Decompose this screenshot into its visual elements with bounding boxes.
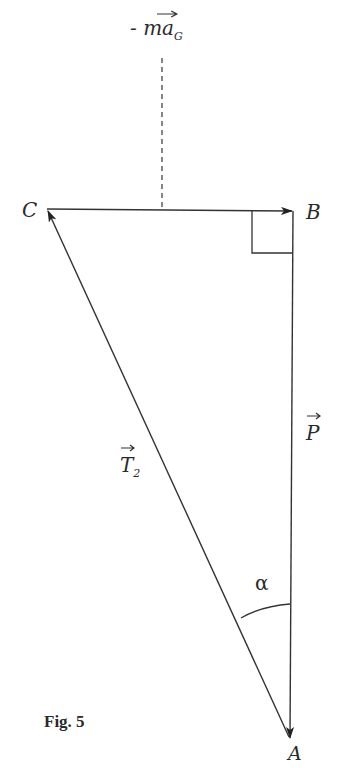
point-label-a: A: [288, 742, 302, 764]
angle-label-alpha: α: [255, 571, 269, 595]
vector-cb: [47, 209, 292, 211]
point-label-c: C: [22, 198, 37, 222]
p-text: P: [306, 421, 319, 445]
vector-arrow-icon: [121, 444, 135, 452]
figure-caption: Fig. 5: [44, 712, 85, 732]
label-p: P: [306, 421, 319, 445]
vector-arrow-icon: [307, 412, 321, 420]
label-ma-g: - maG: [130, 16, 183, 40]
subscript-g: G: [174, 30, 183, 43]
right-angle-marker: [252, 211, 293, 253]
force-triangle-diagram: [0, 0, 340, 770]
point-label-b: B: [306, 200, 321, 224]
minus-sign: -: [130, 16, 143, 40]
ma-text: ma: [143, 16, 174, 40]
vector-arrow-icon: [157, 10, 179, 18]
vector-p: [290, 211, 293, 738]
label-t2: T2: [120, 453, 140, 477]
t-text: T: [120, 453, 133, 477]
vector-t2: [48, 211, 289, 737]
subscript-2: 2: [133, 467, 140, 480]
angle-arc: [241, 604, 290, 618]
